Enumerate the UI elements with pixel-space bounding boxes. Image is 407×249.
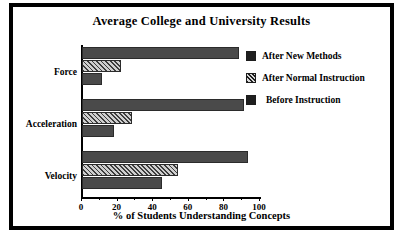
- bar-group-acceleration: [82, 99, 260, 139]
- x-minor-tick-10: [99, 197, 100, 200]
- x-minor-tick-30: [134, 197, 135, 200]
- x-tick-20: [117, 197, 118, 201]
- bar-force-after-normal-instruction: [82, 60, 121, 72]
- legend-item-after-normal-instruction: After Normal Instruction: [246, 69, 388, 86]
- chart-legend: After New Methods After Normal Instructi…: [246, 47, 388, 113]
- bar-force-before-instruction: [82, 73, 102, 85]
- bar-velocity-after-new-methods: [82, 151, 248, 163]
- category-axis-labels: Force Acceleration Velocity: [13, 45, 77, 197]
- legend-label-after-new-methods: After New Methods: [262, 51, 342, 61]
- plot-area: 0 20 40 60 80 100: [82, 45, 260, 197]
- x-minor-tick-70: [206, 197, 207, 200]
- legend-swatch-solid-2-icon: [246, 95, 256, 105]
- bar-group-force: [82, 47, 260, 87]
- legend-label-after-normal-instruction: After Normal Instruction: [262, 73, 365, 83]
- x-tick-40: [152, 197, 153, 201]
- x-tick-80: [223, 197, 224, 201]
- category-label-velocity: Velocity: [45, 171, 77, 181]
- x-axis-title: % of Students Understanding Concepts: [13, 210, 390, 221]
- bar-acceleration-after-new-methods: [82, 99, 244, 111]
- legend-swatch-solid-icon: [246, 51, 256, 61]
- legend-label-before-instruction: Before Instruction: [262, 95, 341, 105]
- x-tick-0: [81, 197, 82, 201]
- bar-force-after-new-methods: [82, 47, 239, 59]
- x-minor-tick-50: [170, 197, 171, 200]
- chart-figure: Average College and University Results F…: [12, 6, 391, 227]
- legend-item-before-instruction: Before Instruction: [246, 91, 388, 108]
- x-tick-60: [188, 197, 189, 201]
- x-tick-100: [259, 197, 260, 201]
- legend-item-after-new-methods: After New Methods: [246, 47, 388, 64]
- legend-swatch-hatch-icon: [246, 73, 256, 83]
- bar-velocity-after-normal-instruction: [82, 164, 178, 176]
- bar-velocity-before-instruction: [82, 177, 162, 189]
- x-minor-tick-90: [241, 197, 242, 200]
- bar-acceleration-before-instruction: [82, 125, 114, 137]
- bar-acceleration-after-normal-instruction: [82, 112, 132, 124]
- category-label-acceleration: Acceleration: [26, 119, 77, 129]
- category-label-force: Force: [54, 67, 77, 77]
- chart-title: Average College and University Results: [13, 14, 390, 29]
- bar-group-velocity: [82, 151, 260, 191]
